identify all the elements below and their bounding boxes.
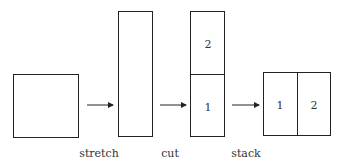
arrows bbox=[0, 0, 338, 164]
step-label-stack: stack bbox=[231, 147, 260, 160]
step-label-stretch: stretch bbox=[79, 147, 119, 160]
step-label-cut: cut bbox=[161, 147, 179, 160]
